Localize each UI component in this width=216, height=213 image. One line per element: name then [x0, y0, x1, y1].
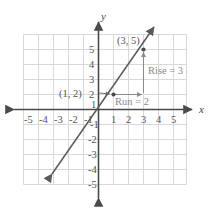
point-label-1-2: (1, 2)	[59, 88, 82, 100]
x-tick-2: 2	[126, 114, 131, 125]
x-axis-label: x	[198, 103, 204, 115]
x-tick-4: 4	[156, 114, 162, 125]
rise-run-bracket	[115, 52, 144, 95]
y-tick--5: -5	[88, 179, 97, 190]
x-tick--4: -4	[39, 114, 48, 125]
x-tick--5: -5	[24, 114, 33, 125]
graph-figure: y x -5 -4 -3 -2 -1 1 2 3 4 5 5 4 3 2 1 -…	[0, 0, 216, 213]
run-annotation: Run = 2	[115, 96, 149, 107]
x-tick-5: 5	[171, 114, 176, 125]
y-tick--1: -1	[90, 119, 99, 130]
point-3-5	[141, 47, 145, 51]
axes	[14, 22, 192, 198]
x-tick--2: -2	[69, 114, 78, 125]
x-tick-3: 3	[141, 114, 146, 125]
point-label-3-5: (3, 5)	[117, 35, 140, 47]
y-tick-3: 3	[89, 74, 94, 85]
y-axis-label: y	[100, 10, 106, 22]
y-tick--3: -3	[88, 149, 97, 160]
coordinate-plane-svg: y x -5 -4 -3 -2 -1 1 2 3 4 5 5 4 3 2 1 -…	[0, 0, 216, 213]
y-tick--2: -2	[88, 134, 97, 145]
rise-annotation: Rise = 3	[148, 65, 183, 76]
x-tick-1: 1	[111, 114, 116, 125]
y-tick-1: 1	[91, 99, 96, 110]
y-tick--4: -4	[88, 164, 97, 175]
y-tick-4: 4	[89, 59, 95, 70]
x-tick--3: -3	[54, 114, 63, 125]
y-tick-5: 5	[89, 44, 94, 55]
